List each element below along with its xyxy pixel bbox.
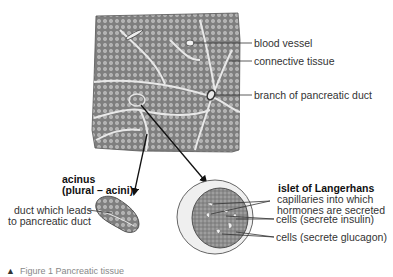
pancreas-diagram: blood vessel connective tissue branch of… — [0, 0, 393, 277]
caption-text: Figure 1 Pancreatic tissue — [20, 266, 124, 276]
label-blood-vessel: blood vessel — [254, 37, 312, 49]
tissue-block — [92, 13, 240, 152]
label-connective-tissue: connective tissue — [254, 55, 335, 67]
acinus-duct-label-2: to pancreatic duct — [8, 215, 91, 227]
acinus-plural: (plural – acini) — [62, 184, 133, 196]
acinus-illustration — [88, 196, 139, 232]
label-insulin-cells: cells (secrete insulin) — [276, 213, 374, 225]
blood-vessel — [186, 40, 194, 46]
caption-triangle-icon: ▲ — [6, 266, 15, 276]
figure-caption: ▲Figure 1 Pancreatic tissue — [6, 266, 124, 276]
label-glucagon-cells: cells (secrete glucagon) — [276, 231, 387, 243]
label-branch-of-pancreatic-duct: branch of pancreatic duct — [254, 89, 372, 101]
